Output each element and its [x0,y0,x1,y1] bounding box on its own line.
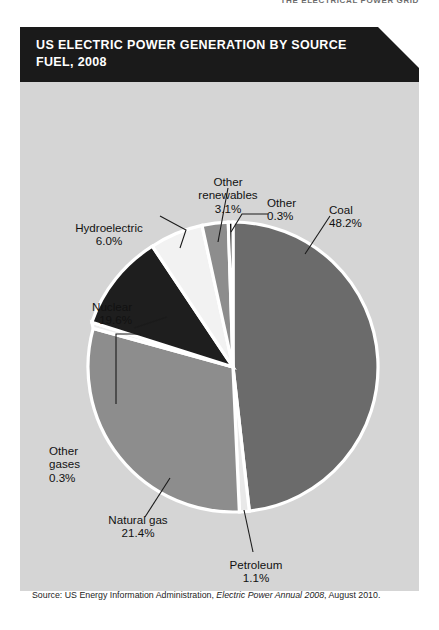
figure-title: US ELECTRIC POWER GENERATION BY SOURCE F… [36,37,366,71]
label-other-renewables-name2: renewables [175,188,281,201]
label-other-gases: Other gases 0.3% [49,444,80,484]
figure-title-line1: US ELECTRIC POWER GENERATION BY SOURCE [36,38,347,52]
label-other-renewables-name: Other [175,175,281,188]
source-suffix: , August 2010. [324,590,380,600]
pie-slice-coal[interactable] [233,222,378,511]
label-hydroelectric: Hydroelectric 6.0% [58,221,160,248]
source-note: Source: US Energy Information Administra… [32,590,380,600]
label-other-gases-value: 0.3% [49,471,80,484]
label-petroleum: Petroleum 1.1% [212,558,300,585]
label-petroleum-value: 1.1% [212,571,300,584]
label-other: Other 0.3% [267,196,296,223]
label-other-renewables: Other renewables 3.1% [175,175,281,215]
pie-chart [20,82,419,591]
running-head: THE ELECTRICAL POWER GRID [281,0,419,5]
label-other-name: Other [267,196,296,209]
label-petroleum-name: Petroleum [212,558,300,571]
figure-container: US ELECTRIC POWER GENERATION BY SOURCE F… [20,27,419,609]
label-natural-gas-value: 21.4% [83,526,193,539]
figure-title-line2: FUEL, 2008 [36,55,107,69]
label-other-value: 0.3% [267,209,296,222]
leader-line-petroleum [244,510,253,552]
label-coal-name: Coal [329,203,362,216]
label-natural-gas-name: Natural gas [83,513,193,526]
label-nuclear-name: Nuclear [32,300,132,313]
label-other-gases-name2: gases [49,457,80,470]
label-hydroelectric-name: Hydroelectric [58,221,160,234]
pie-slices [88,222,378,512]
source-publication: Electric Power Annual 2008 [216,590,324,600]
label-other-gases-name: Other [49,444,80,457]
label-coal: Coal 48.2% [329,203,362,230]
source-prefix: Source: US Energy Information Administra… [32,590,216,600]
label-other-renewables-value: 3.1% [175,202,281,215]
label-nuclear-value: 19.6% [32,313,132,326]
label-coal-value: 48.2% [329,216,362,229]
label-hydroelectric-value: 6.0% [58,234,160,247]
label-natural-gas: Natural gas 21.4% [83,513,193,540]
figure-page: THE ELECTRICAL POWER GRID US ELECTRIC PO… [0,0,439,630]
label-nuclear: Nuclear 19.6% [32,300,132,327]
